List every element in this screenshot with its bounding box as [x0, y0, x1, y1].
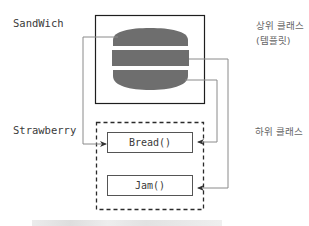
jam-method-box: Jam()	[107, 175, 193, 196]
template-method-diagram: Bread() Jam() SandWich Strawberry 상위 클래스…	[0, 0, 309, 226]
sandwich-label: SandWich	[13, 17, 64, 29]
jam-method-label: Jam()	[135, 180, 165, 191]
bread-method-label: Bread()	[129, 137, 171, 148]
patty-shape	[112, 50, 189, 66]
template-label: (템플릿)	[256, 33, 290, 47]
top-bun-shape	[113, 28, 188, 46]
strawberry-label: Strawberry	[13, 124, 76, 136]
super-class-label: 상위 클래스	[256, 18, 304, 32]
sub-class-label: 하위 클래스	[255, 124, 303, 138]
figure-caption	[32, 220, 222, 226]
bread-method-box: Bread()	[107, 132, 193, 153]
